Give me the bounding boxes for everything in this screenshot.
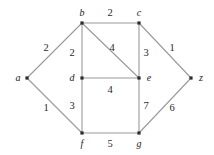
edge-weight-d-f: 3 [69, 101, 74, 112]
edge-weight-a-b: 2 [43, 43, 48, 54]
node-dot-b [80, 21, 83, 24]
node-label-a: a [16, 73, 21, 83]
node-dot-f [80, 131, 83, 134]
node-label-e: e [147, 73, 151, 83]
edge-weight-b-e: 4 [109, 43, 114, 54]
edge-weight-c-e: 3 [143, 48, 148, 59]
edge-weight-b-c: 2 [107, 8, 112, 19]
node-dot-c [137, 21, 140, 24]
graph-diagram: abcdefgz212243143756 [0, 0, 214, 155]
node-dot-g [137, 131, 140, 134]
node-label-g: g [137, 139, 142, 149]
node-label-z: z [199, 73, 203, 83]
node-label-b: b [80, 8, 85, 18]
edge-weight-e-g: 7 [143, 101, 148, 112]
node-dot-a [25, 76, 28, 79]
edge-weight-d-e: 4 [107, 85, 112, 96]
node-dot-e [137, 76, 140, 79]
edge-weight-a-f: 1 [43, 103, 48, 114]
graph-canvas [0, 0, 214, 155]
node-label-f: f [81, 139, 84, 149]
edge-weight-c-z: 1 [169, 43, 174, 54]
node-label-d: d [70, 73, 75, 83]
edge-weight-g-z: 6 [169, 103, 174, 114]
edge-weight-b-d: 2 [69, 48, 74, 59]
node-dot-d [80, 76, 83, 79]
node-label-c: c [137, 8, 141, 18]
node-dot-z [189, 76, 192, 79]
edge-weight-f-g: 5 [107, 139, 112, 150]
